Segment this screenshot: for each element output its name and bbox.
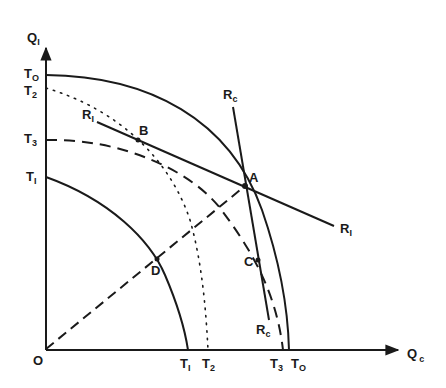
y-tick-t3: T3 bbox=[24, 131, 37, 148]
label-r-c-top: Rc bbox=[223, 87, 237, 104]
point-a-marker bbox=[242, 183, 248, 189]
x-axis-label: Qc bbox=[407, 346, 424, 364]
point-d-marker bbox=[155, 257, 160, 262]
transformation-curve-diagram: QI Qc O TO T2 T3 TI TI T2 T3 TO RI RI Rc… bbox=[0, 0, 446, 388]
curve-t3 bbox=[46, 140, 283, 350]
x-tick-t1: TI bbox=[180, 356, 190, 373]
point-b-marker bbox=[136, 138, 141, 143]
label-point-b: B bbox=[139, 123, 148, 138]
label-point-d: D bbox=[151, 263, 160, 278]
y-tick-t1: TI bbox=[26, 169, 36, 186]
curve-t1 bbox=[46, 177, 188, 350]
y-tick-t2: T2 bbox=[24, 83, 37, 100]
line-r-i bbox=[97, 122, 334, 226]
curve-t2 bbox=[46, 88, 208, 350]
label-r-i-end: RI bbox=[340, 221, 352, 238]
point-c-marker bbox=[256, 258, 261, 263]
label-r-c-bottom: Rc bbox=[256, 322, 270, 339]
origin-label: O bbox=[33, 353, 43, 368]
y-axis-label: QI bbox=[27, 30, 40, 47]
x-tick-t0: TO bbox=[291, 356, 306, 373]
y-tick-t0: TO bbox=[24, 66, 39, 83]
ray-o-a bbox=[46, 186, 245, 349]
label-point-a: A bbox=[249, 170, 259, 185]
x-tick-t3: T3 bbox=[270, 356, 283, 373]
label-r-i-start: RI bbox=[82, 107, 94, 124]
label-point-c: C bbox=[244, 254, 254, 269]
x-tick-t2: T2 bbox=[202, 356, 215, 373]
